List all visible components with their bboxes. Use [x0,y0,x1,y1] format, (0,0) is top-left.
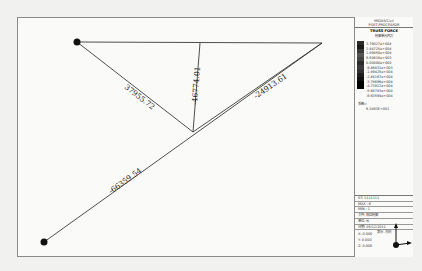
coordinates: X: 0.000 Y: 0.000 Z: 0.000 [358,231,372,249]
member-label-right-diagonal: -24913.61 [252,71,289,100]
legend-color-scale [357,41,364,89]
legend-panel: MIDAS/Civil POST-PROCESSOR TRUSS FORCE 桁… [354,17,413,257]
coord-z: Z: 0.000 [358,243,372,249]
coef-value: 6.3493E+001 [366,107,389,111]
legend-header: MIDAS/Civil POST-PROCESSOR [355,17,413,28]
member-top-chord [77,42,322,43]
coef-label: 系数= [358,101,367,106]
member-label-long-diagonal: -66359.54 [107,166,144,196]
truss-diagram[interactable]: 37955.72 -46774.01 -24913.61 -66359.54 [0,0,354,271]
member-label-left-diagonal: 37955.72 [123,82,157,111]
legend-values: 3.79027e+0042.84725e+0041.89850e+004 9.5… [366,42,393,98]
legend-module-name: POST-PROCESSOR [355,23,413,27]
support-node-bottom-left [41,239,48,246]
member-diagonal-right [193,43,322,132]
legend-subtitle: 桁架单元内力 [355,33,413,38]
member-label-vertical: -46774.01 [190,66,202,105]
support-node-top-left [74,39,81,46]
axis-triad-icon [389,222,413,252]
